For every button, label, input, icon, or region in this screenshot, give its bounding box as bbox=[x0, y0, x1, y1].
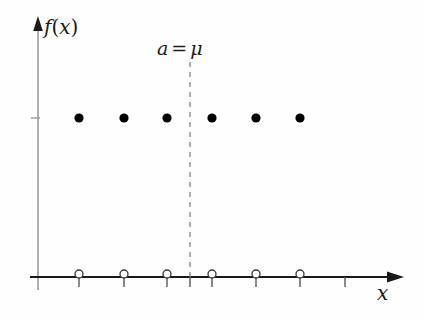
annotation-label-a: a bbox=[157, 37, 168, 59]
data-point-filled bbox=[162, 113, 171, 122]
data-point-filled bbox=[295, 113, 304, 122]
plot-canvas bbox=[0, 0, 424, 319]
annotation-label-a-equals-mu: a=μ bbox=[157, 39, 203, 58]
data-point-open bbox=[163, 270, 171, 278]
data-point-filled bbox=[74, 113, 83, 122]
data-point-open bbox=[75, 270, 83, 278]
data-point-open bbox=[208, 270, 216, 278]
uniform-distribution-figure: f(x) x a=μ bbox=[0, 0, 424, 319]
y-axis-label-close-paren: ) bbox=[71, 15, 79, 39]
annotation-label-mu: μ bbox=[190, 37, 202, 59]
data-point-open bbox=[296, 270, 304, 278]
data-point-filled bbox=[119, 113, 128, 122]
x-axis-label: x bbox=[377, 283, 388, 303]
data-point-filled bbox=[251, 113, 260, 122]
y-axis-label-variable: x bbox=[59, 15, 70, 39]
annotation-label-equals: = bbox=[168, 37, 190, 59]
x-axis-arrowhead bbox=[387, 272, 404, 283]
data-point-open bbox=[252, 270, 260, 278]
y-axis-arrowhead bbox=[33, 16, 43, 31]
data-point-open bbox=[120, 270, 128, 278]
y-axis-label: f(x) bbox=[44, 17, 78, 37]
data-point-filled bbox=[207, 113, 216, 122]
